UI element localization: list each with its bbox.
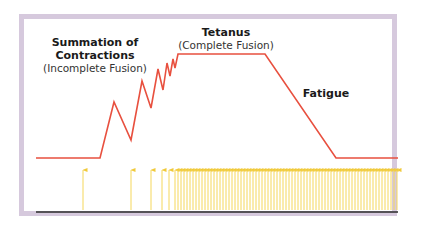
summation-title-line1: Summation of	[40, 36, 150, 49]
stimulus-arrows	[83, 170, 397, 210]
tetanus-title: Tetanus	[178, 26, 274, 39]
fatigue-label: Fatigue	[301, 87, 351, 100]
summation-label: Summation of Contractions (Incomplete Fu…	[40, 36, 150, 75]
summation-title-line2: Contractions	[40, 49, 150, 62]
fatigue-title: Fatigue	[301, 87, 351, 100]
tetanus-subtitle: (Complete Fusion)	[178, 39, 274, 52]
tetanus-label: Tetanus (Complete Fusion)	[178, 26, 274, 52]
summation-subtitle: (Incomplete Fusion)	[40, 62, 150, 75]
